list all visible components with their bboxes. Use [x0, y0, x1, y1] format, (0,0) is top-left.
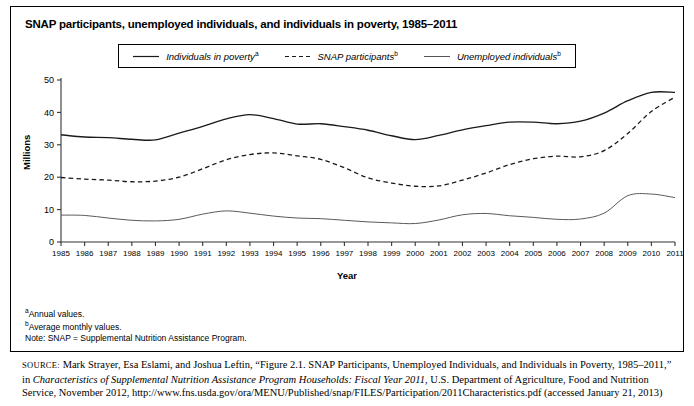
- legend-item-unemployed[interactable]: Unemployed individualsb: [424, 50, 561, 62]
- figure-box: SNAP participants, unemployed individual…: [10, 6, 684, 352]
- figure-page: SNAP participants, unemployed individual…: [0, 0, 694, 406]
- legend-text-snap: SNAP participants: [318, 51, 395, 62]
- legend-label-unemployed: Unemployed individualsb: [457, 50, 561, 62]
- series-line-individuals-in-poverty: [61, 92, 675, 141]
- legend-line-thin-icon: [424, 53, 450, 60]
- x-axis-label: Year: [11, 270, 683, 281]
- x-tick-label: 2010: [642, 249, 660, 258]
- x-tick-label: 1995: [288, 249, 306, 258]
- footnote-note: Note: SNAP = Supplemental Nutrition Assi…: [25, 333, 247, 344]
- series-line-snap-participants: [61, 97, 675, 187]
- x-tick-label: 1997: [335, 249, 353, 258]
- y-tick-label: 0: [49, 237, 54, 247]
- legend-sup-snap: b: [394, 50, 398, 57]
- x-tick-label: 2011: [666, 249, 683, 258]
- legend-item-poverty[interactable]: Individuals in povertya: [133, 50, 258, 62]
- plot-area: Millions 0102030405019851986198719881989…: [11, 74, 683, 284]
- x-tick-label: 1994: [265, 249, 283, 258]
- x-tick-label: 1993: [241, 249, 259, 258]
- y-tick-label: 50: [44, 75, 54, 85]
- y-tick-label: 20: [44, 173, 54, 183]
- legend-item-snap[interactable]: SNAP participantsb: [285, 50, 398, 62]
- x-tick-label: 1996: [312, 249, 330, 258]
- chart-legend: Individuals in povertya SNAP participant…: [118, 44, 576, 68]
- x-tick-label: 2009: [619, 249, 637, 258]
- x-tick-label: 1987: [99, 249, 117, 258]
- legend-label-poverty: Individuals in povertya: [166, 50, 258, 62]
- source-citation: SOURCE: Mark Strayer, Esa Eslami, and Jo…: [10, 356, 684, 400]
- x-tick-label: 2001: [430, 249, 448, 258]
- x-tick-label: 1992: [217, 249, 235, 258]
- legend-text-unemployed: Unemployed individuals: [457, 51, 557, 62]
- legend-line-dashed-icon: [285, 53, 311, 60]
- series-line-unemployed-individuals: [61, 194, 675, 224]
- footnote-a: aAnnual values.: [25, 306, 247, 319]
- footnote-b: bAverage monthly values.: [25, 319, 247, 332]
- x-tick-label: 1999: [383, 249, 401, 258]
- x-tick-label: 1991: [194, 249, 212, 258]
- legend-label-snap: SNAP participantsb: [318, 50, 398, 62]
- x-tick-label: 1990: [170, 249, 188, 258]
- legend-sup-unemployed: b: [557, 50, 561, 57]
- y-tick-label: 10: [44, 205, 54, 215]
- source-italic-title: Characteristics of Supplemental Nutritio…: [33, 374, 425, 385]
- x-tick-label: 2008: [595, 249, 613, 258]
- y-tick-label: 30: [44, 140, 54, 150]
- legend-sup-poverty: a: [255, 50, 259, 57]
- x-tick-label: 1985: [52, 249, 70, 258]
- footnote-b-text: Average monthly values.: [29, 322, 122, 332]
- figure-title: SNAP participants, unemployed individual…: [11, 7, 683, 31]
- x-tick-label: 1989: [147, 249, 165, 258]
- x-tick-label: 1988: [123, 249, 141, 258]
- x-tick-label: 2004: [501, 249, 519, 258]
- x-tick-label: 1986: [76, 249, 94, 258]
- y-tick-label: 40: [44, 108, 54, 118]
- x-tick-label: 2000: [406, 249, 424, 258]
- source-label: SOURCE:: [22, 360, 60, 370]
- legend-text-poverty: Individuals in poverty: [166, 51, 255, 62]
- x-tick-label: 2002: [454, 249, 472, 258]
- footnote-a-text: Annual values.: [29, 309, 85, 319]
- x-tick-label: 2006: [548, 249, 566, 258]
- x-tick-label: 2005: [524, 249, 542, 258]
- x-tick-label: 2003: [477, 249, 495, 258]
- x-tick-label: 1998: [359, 249, 377, 258]
- chart-canvas: 0102030405019851986198719881989199019911…: [11, 74, 683, 274]
- footnotes: aAnnual values. bAverage monthly values.…: [25, 306, 247, 343]
- x-tick-label: 2007: [572, 249, 590, 258]
- legend-container: Individuals in povertya SNAP participant…: [11, 44, 683, 68]
- legend-line-solid-icon: [133, 53, 159, 60]
